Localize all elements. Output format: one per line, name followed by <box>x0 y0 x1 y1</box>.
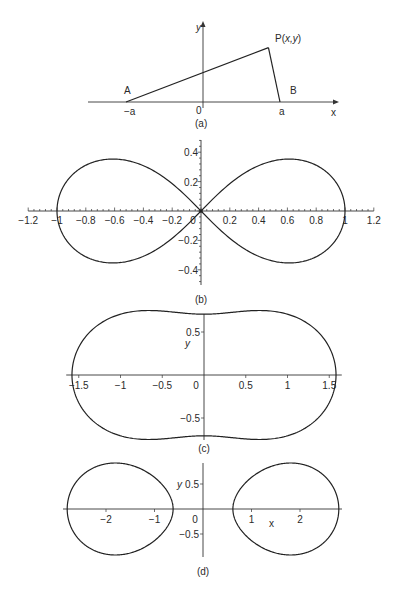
x-axis-label: x <box>331 107 336 118</box>
segment-1 <box>268 48 280 102</box>
y-axis-label: y <box>176 479 183 490</box>
origin-point <box>199 209 203 213</box>
x-tick-label: −1 <box>149 514 161 525</box>
x-tick-label: 0 <box>193 380 199 391</box>
tick-label-minus-a: −a <box>124 106 136 117</box>
point-coords: x,y <box>284 33 299 44</box>
panel-a: yx0A−aBaP(x,y)(a) <box>88 21 339 129</box>
segment-0 <box>126 48 268 102</box>
x-tick-label: 1 <box>249 514 255 525</box>
caption-a: (a) <box>195 118 207 129</box>
caption-d: (d) <box>197 566 209 577</box>
y-axis-arrow-icon <box>201 21 206 27</box>
y-tick-label: 0.2 <box>184 177 198 188</box>
x-tick-label: 0.6 <box>280 215 294 226</box>
x-tick-label: −0.2 <box>162 215 182 226</box>
x-tick-label: −1.2 <box>18 215 38 226</box>
x-tick-label: 0 <box>192 514 198 525</box>
panel-d: −2−10120.5−0.5yx(d) <box>63 463 342 577</box>
y-axis-label: y <box>184 338 191 349</box>
x-tick-label: −0.8 <box>76 215 96 226</box>
x-tick-label: 1.2 <box>367 215 381 226</box>
caption-b: (b) <box>195 294 207 305</box>
x-axis-label: x <box>269 518 274 529</box>
x-tick-label: 0.8 <box>309 215 323 226</box>
caption-c: (c) <box>198 443 210 454</box>
y-tick-label: 0.5 <box>186 327 200 338</box>
y-axis-label: y <box>195 22 202 33</box>
y-tick-label: −0.5 <box>180 413 200 424</box>
y-tick-label: −0.5 <box>179 529 199 540</box>
y-tick-label: −0.4 <box>178 265 198 276</box>
x-tick-label: −0.6 <box>105 215 125 226</box>
x-tick-label: −2 <box>100 514 112 525</box>
x-tick-label: −0.4 <box>134 215 154 226</box>
x-tick-label: 2 <box>297 514 303 525</box>
x-tick-label: −0.5 <box>152 380 172 391</box>
y-tick-label: 0.4 <box>184 147 198 158</box>
origin-label: 0 <box>196 105 202 116</box>
x-tick-label: −1 <box>115 380 127 391</box>
point-label-B: B <box>290 85 297 96</box>
point-label-P: P(x,y) <box>275 33 301 44</box>
x-tick-label: 1 <box>285 380 291 391</box>
x-tick-label: 0.5 <box>239 380 253 391</box>
x-tick-label: 0.2 <box>223 215 237 226</box>
x-tick-label: 0.4 <box>252 215 266 226</box>
x-axis-arrow-icon <box>333 100 339 105</box>
panel-c: −1.5−1−0.500.511.50.5−0.5y(c) <box>66 311 342 455</box>
y-tick-label: 0.5 <box>185 479 199 490</box>
tick-label-a: a <box>279 106 285 117</box>
figure: yx0A−aBaP(x,y)(a) −1.2−1−0.8−0.6−0.4−0.2… <box>0 0 394 591</box>
panel-b: −1.2−1−0.8−0.6−0.4−0.200.20.40.60.811.20… <box>18 140 381 305</box>
point-label-A: A <box>124 85 131 96</box>
y-tick-label: −0.2 <box>178 235 198 246</box>
